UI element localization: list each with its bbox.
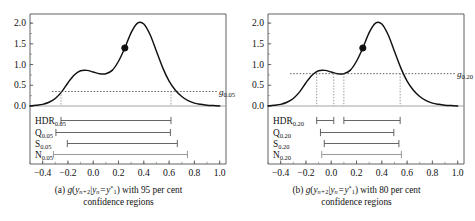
interval-label-hdr: HDR0.20: [273, 116, 304, 127]
svg-text:0.0: 0.0: [252, 100, 264, 111]
svg-text:1.0: 1.0: [452, 167, 464, 178]
density-plot-a: 0.00.51.01.52.0−0.4−0.20.00.20.40.60.81.…: [0, 0, 237, 183]
svg-text:−0.2: −0.2: [59, 167, 77, 178]
figure-confidence-regions: 0.00.51.01.52.0−0.4−0.20.00.20.40.60.81.…: [0, 0, 475, 221]
caption-b-tail: with 80 per cent: [360, 185, 420, 195]
svg-text:1.5: 1.5: [14, 38, 26, 49]
plot-area-a: 0.00.51.01.52.0−0.4−0.20.00.20.40.60.81.…: [0, 0, 237, 183]
caption-a-tail: with 95 per cent: [122, 185, 182, 195]
svg-text:−0.4: −0.4: [34, 167, 52, 178]
threshold-label: g0.05: [219, 87, 236, 98]
interval-label-q: Q0.05: [35, 128, 53, 139]
svg-text:0.5: 0.5: [14, 79, 26, 90]
svg-text:−0.4: −0.4: [272, 167, 290, 178]
interval-label-s: S0.05: [35, 139, 52, 150]
svg-text:1.0: 1.0: [214, 167, 226, 178]
caption-b-line2: confidence regions: [238, 197, 475, 209]
threshold-label: g0.20: [457, 69, 474, 80]
svg-text:0.5: 0.5: [252, 79, 264, 90]
svg-text:2.0: 2.0: [14, 17, 26, 28]
svg-text:0.0: 0.0: [14, 100, 26, 111]
plot-area-b: 0.00.51.01.52.0−0.4−0.20.00.20.40.60.81.…: [238, 0, 475, 183]
svg-text:0.8: 0.8: [188, 167, 200, 178]
svg-text:2.0: 2.0: [252, 17, 264, 28]
density-plot-b: 0.00.51.01.52.0−0.4−0.20.00.20.40.60.81.…: [238, 0, 475, 183]
svg-text:0.6: 0.6: [401, 167, 413, 178]
svg-text:0.6: 0.6: [163, 167, 175, 178]
caption-a-line2: confidence regions: [0, 197, 237, 209]
svg-text:0.2: 0.2: [351, 167, 363, 178]
svg-text:0.2: 0.2: [113, 167, 125, 178]
interval-label-n: N0.20: [273, 150, 291, 161]
caption-a-index: (a): [55, 185, 65, 195]
caption-a-line1: (a) g(yn + 2|yn = y*1) with 95 per cent: [0, 184, 237, 197]
svg-text:0.0: 0.0: [87, 167, 99, 178]
panel-a: 0.00.51.01.52.0−0.4−0.20.00.20.40.60.81.…: [0, 0, 237, 221]
caption-a: (a) g(yn + 2|yn = y*1) with 95 per cent …: [0, 184, 237, 208]
caption-b: (b) g(yn + 2|yn = y*1) with 80 per cent …: [238, 184, 475, 208]
caption-b-index: (b): [292, 185, 303, 195]
interval-label-s: S0.20: [273, 139, 290, 150]
svg-text:1.5: 1.5: [252, 38, 264, 49]
caption-b-line1: (b) g(yn + 2|yn = y*1) with 80 per cent: [238, 184, 475, 197]
svg-text:−0.2: −0.2: [297, 167, 315, 178]
svg-text:1.0: 1.0: [14, 59, 26, 70]
interval-label-q: Q0.20: [273, 128, 291, 139]
panel-b: 0.00.51.01.52.0−0.4−0.20.00.20.40.60.81.…: [238, 0, 475, 221]
svg-text:0.4: 0.4: [376, 167, 388, 178]
svg-text:0.8: 0.8: [426, 167, 438, 178]
svg-text:0.4: 0.4: [138, 167, 150, 178]
interval-label-n: N0.05: [35, 150, 53, 161]
svg-text:0.0: 0.0: [325, 167, 337, 178]
svg-text:1.0: 1.0: [252, 59, 264, 70]
